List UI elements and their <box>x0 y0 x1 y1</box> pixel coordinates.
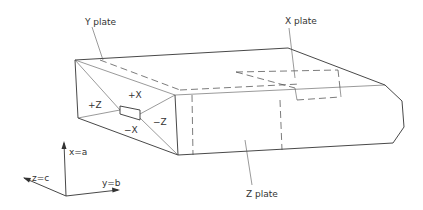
y-axis-line <box>66 190 118 196</box>
minus-z-label: −Z <box>153 117 167 127</box>
y-axis-arrow-icon <box>112 188 120 193</box>
x-plate-leader <box>289 28 295 78</box>
y-plate-leader <box>92 27 103 60</box>
x-plate-label: X plate <box>285 16 317 26</box>
y-plate-label: Y plate <box>84 17 117 27</box>
z-plate-label: Z plate <box>246 189 278 199</box>
crystal-diagram: Y plate X plate Z plate +X +Z −X −Z x=a … <box>0 0 423 210</box>
z-axis-arrow-icon <box>23 178 31 183</box>
plus-x-label: +X <box>128 90 142 100</box>
y-axis-label: y=b <box>102 178 121 188</box>
x-axis-arrow-icon <box>62 141 67 149</box>
z-axis-label: z=c <box>32 173 49 183</box>
crystal-outline <box>75 48 404 155</box>
plus-z-label: +Z <box>88 100 102 110</box>
minus-x-label: −X <box>124 125 138 135</box>
z-plate-leader <box>245 140 252 185</box>
x-axis-label: x=a <box>69 147 87 157</box>
x-axis-line <box>64 143 66 196</box>
plate-cut-lines <box>100 60 341 155</box>
